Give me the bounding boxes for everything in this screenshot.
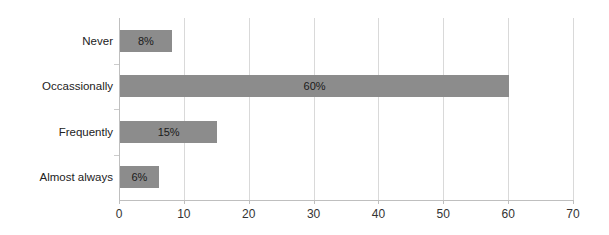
y-axis-tick [114,64,119,65]
gridline [184,18,185,200]
x-tick-label: 70 [553,207,593,221]
x-axis-tick [443,200,444,204]
category-label: Almost always [0,166,113,188]
x-tick-label: 10 [164,207,204,221]
y-axis-tick [114,155,119,156]
category-label: Never [0,30,113,52]
x-axis-tick [314,200,315,204]
plot-area [119,18,573,200]
x-axis-tick [119,200,120,204]
x-axis-tick [508,200,509,204]
x-tick-label: 0 [99,207,139,221]
x-tick-label: 30 [294,207,334,221]
x-axis-tick [184,200,185,204]
gridline [314,18,315,200]
category-label: Occassionally [0,75,113,97]
gridline [249,18,250,200]
gridline [508,18,509,200]
x-tick-label: 60 [488,207,528,221]
x-axis-tick [249,200,250,204]
bar [120,30,172,52]
gridline [378,18,379,200]
gridline [573,18,574,200]
x-axis-tick [573,200,574,204]
bar-chart: 010203040506070 NeverOccassionallyFreque… [0,0,609,235]
y-axis-tick [114,109,119,110]
x-tick-label: 50 [423,207,463,221]
x-tick-label: 20 [229,207,269,221]
bar [120,75,509,97]
bar [120,166,159,188]
x-tick-label: 40 [358,207,398,221]
bar [120,121,217,143]
gridline [443,18,444,200]
category-label: Frequently [0,121,113,143]
x-axis-tick [378,200,379,204]
x-axis-line [119,200,574,201]
